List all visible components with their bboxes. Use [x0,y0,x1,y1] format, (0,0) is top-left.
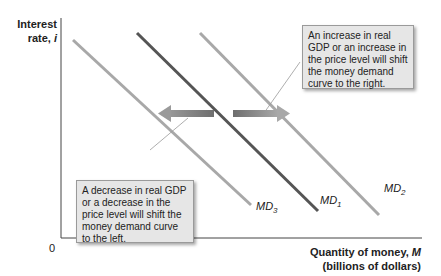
x-axis-label-line1: Quantity of money, M [310,245,421,259]
y-axis-label-line2: rate, i [17,31,57,45]
md1-label-subscript: 1 [337,200,341,209]
y-axis-label-text: rate, [28,32,51,44]
md3-label-text: MD [256,200,273,212]
x-axis-variable: M [412,246,421,258]
md1-label: MD1 [320,194,342,209]
increase-note: An increase in real GDP or an increase i… [302,25,414,89]
md2-label-text: MD [384,182,401,194]
md1-label-text: MD [320,194,337,206]
shift-right-arrow-icon [233,105,290,122]
y-axis-label: Interest rate, i [17,17,57,45]
y-axis-variable: i [54,32,57,44]
x-axis-label-text: Quantity of money, [310,246,409,258]
md2-label-subscript: 2 [401,188,405,197]
y-axis-label-line1: Interest [17,17,57,31]
md3-label-subscript: 3 [273,206,277,215]
origin-label: 0 [49,242,55,254]
x-axis-label: Quantity of money, M (billions of dollar… [310,245,421,273]
left-note-leader [150,118,188,150]
x-axis-units: (billions of dollars) [310,259,421,273]
md2-label: MD2 [384,182,406,197]
right-note-leader [264,62,300,113]
decrease-note: A decrease in real GDP or a decrease in … [76,180,194,243]
md3-label: MD3 [256,200,278,215]
